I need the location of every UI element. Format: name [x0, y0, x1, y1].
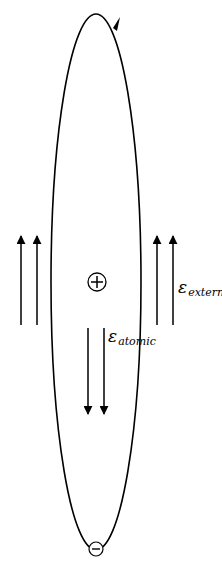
orbit-direction-arrow-icon [113, 17, 120, 31]
external-field-subscript: external [188, 286, 222, 299]
atomic-field-subscript: atomic [118, 335, 156, 348]
atomic-field-arrows [88, 328, 104, 414]
atomic-field-label: εatomic [108, 328, 156, 345]
external-field-label: εexternal [178, 279, 222, 296]
atom-field-diagram: εexternal εatomic [0, 0, 222, 572]
atomic-field-symbol: ε [108, 326, 117, 346]
external-field-arrows-right [157, 236, 173, 325]
minus-circle-icon [89, 542, 103, 556]
plus-circle-icon [88, 273, 106, 291]
external-field-symbol: ε [178, 277, 187, 297]
external-field-arrows-left [21, 236, 37, 325]
